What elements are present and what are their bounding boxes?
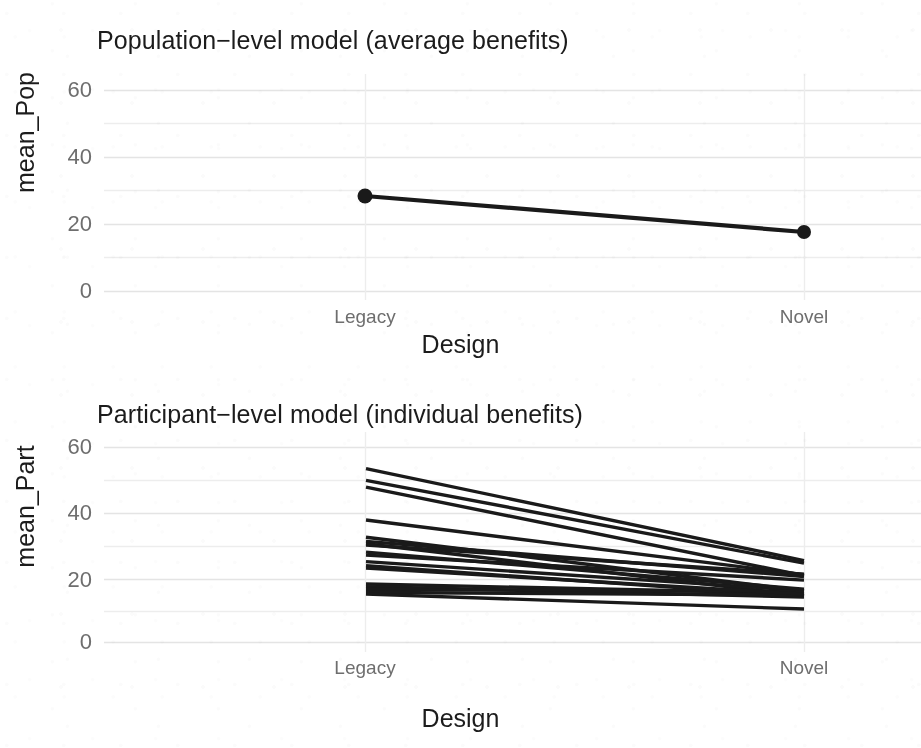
x-axis-title-design-bottom: Design: [0, 704, 921, 733]
data-point-legacy: [358, 189, 373, 204]
panel-participant-level: Participant−level model (individual bene…: [0, 374, 921, 748]
population-mean-series: [358, 189, 812, 240]
gridlines-vertical-top: [366, 74, 805, 300]
x-axis-title-design-top: Design: [0, 330, 921, 359]
gridlines-minor-top: [104, 124, 921, 258]
x-tick-novel-bottom: Novel: [780, 657, 829, 679]
participant-line: [366, 487, 804, 575]
figure-canvas: Population−level model (average benefits…: [0, 0, 921, 748]
x-tick-legacy-bottom: Legacy: [334, 657, 395, 679]
x-tick-legacy-top: Legacy: [334, 306, 395, 328]
panel-population-level: Population−level model (average benefits…: [0, 0, 921, 374]
gridlines-vertical-bottom: [366, 432, 805, 652]
gridlines-major-bottom: [104, 448, 921, 643]
participant-line-series: [366, 469, 804, 609]
data-point-novel: [797, 225, 811, 239]
plot-area-participant: [0, 374, 921, 748]
x-tick-novel-top: Novel: [780, 306, 829, 328]
